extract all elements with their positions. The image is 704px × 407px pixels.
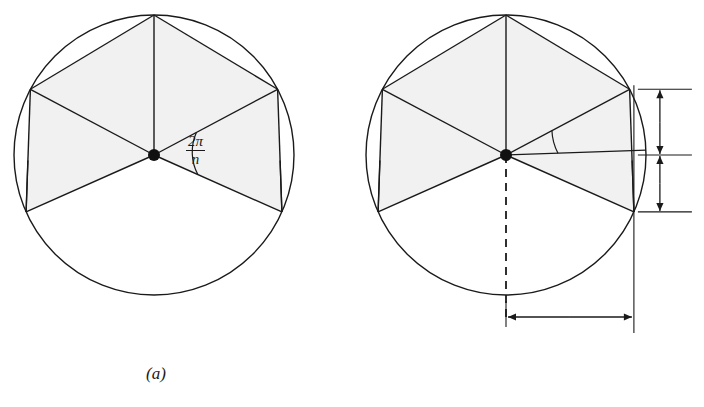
figure-b-drawing xyxy=(352,0,704,407)
fraction-2pi-over-n: 2π n xyxy=(186,134,205,168)
figure-page: 2π n (a) π n r sin xyxy=(0,0,704,407)
dimension-arrow-down-lower-head xyxy=(656,203,663,211)
center-dot-b xyxy=(500,149,512,161)
figure-panel-a: 2π n (a) xyxy=(0,0,352,407)
dimension-arrow-up-lower-head xyxy=(656,156,663,164)
dimension-arrow-down-upper-head xyxy=(656,146,663,154)
fraction-denominator: n xyxy=(190,152,202,167)
panel-caption-a: (a) xyxy=(126,364,186,384)
dimension-arrow-left-apothem-head xyxy=(508,313,516,320)
center-dot-a xyxy=(148,149,160,161)
fraction-numerator: 2π xyxy=(186,134,205,149)
figure-panel-b: π n r sin π n r sin π n r cos π n xyxy=(352,0,704,407)
dimension-arrow-right-apothem-head xyxy=(624,313,632,320)
figure-a-drawing xyxy=(0,0,352,407)
dimension-arrow-up-upper-head xyxy=(656,90,663,98)
central-angle-label-a: 2π n xyxy=(186,134,205,168)
